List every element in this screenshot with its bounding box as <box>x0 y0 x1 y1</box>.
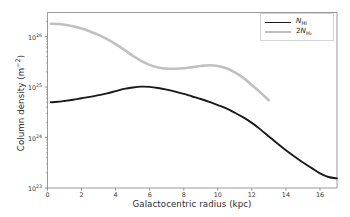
y-tick-mantissa: 10 <box>28 84 36 92</box>
x-tick-label: 14 <box>276 191 296 199</box>
x-tick-label: 2 <box>72 191 92 199</box>
y-tick-exponent: 26 <box>36 33 42 38</box>
x-tick-label: 4 <box>106 191 126 199</box>
x-tick-label: 8 <box>174 191 194 199</box>
legend-line-swatch <box>265 31 291 33</box>
legend-line-swatch <box>265 22 291 23</box>
x-tick-label: 12 <box>242 191 262 199</box>
y-tick-exponent: 25 <box>36 83 42 88</box>
x-tick-label: 16 <box>310 191 330 199</box>
x-tick-label: 6 <box>140 191 160 199</box>
x-axis-title: Galactocentric radius (kpc) <box>47 199 337 209</box>
figure-canvas: 1023102410251026 0246810121416 Column de… <box>0 0 350 217</box>
legend: NHI2NH₂ <box>260 13 334 41</box>
legend-label-subscript: H₂ <box>306 31 312 37</box>
series-line-nhi <box>51 87 337 179</box>
y-axis-title-exponent: −2 <box>14 58 22 68</box>
y-tick-exponent: 24 <box>36 134 42 139</box>
y-axis-title-text: Column density (m <box>16 68 26 151</box>
x-tick-label: 0 <box>38 191 58 199</box>
y-tick-mantissa: 10 <box>28 135 36 143</box>
y-axis-title: Column density (m−2) <box>14 8 28 198</box>
y-axis-ticks <box>45 37 48 188</box>
y-tick-exponent: 23 <box>36 184 42 189</box>
legend-entry-label: 2NH₂ <box>296 27 312 37</box>
x-tick-label: 10 <box>208 191 228 199</box>
y-tick-mantissa: 10 <box>28 34 36 42</box>
data-curves <box>51 24 337 179</box>
y-axis-title-tail: ) <box>16 55 26 58</box>
legend-entry: 2NH₂ <box>265 27 329 37</box>
